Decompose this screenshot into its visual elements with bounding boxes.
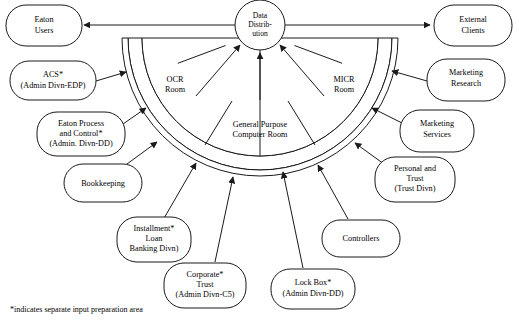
node-controllers[interactable]: Controllers: [322, 220, 400, 257]
footnote: *indicates separate input preparation ar…: [10, 305, 143, 314]
personal-trust-line-2: (Trust Divn): [395, 184, 436, 193]
installment-loan-line-1: Loan: [146, 234, 163, 243]
personal-trust-line-0: Personal and: [394, 164, 436, 173]
node-external-clients[interactable]: External Clients: [434, 5, 512, 46]
installment-loan-line-0: Installment*: [134, 224, 175, 233]
controllers-line-0: Controllers: [343, 234, 380, 243]
label-ocr-room: OCR Room: [165, 75, 186, 94]
external-clients-line-0: External: [459, 15, 487, 24]
flow-lock-box-to-band: [283, 172, 303, 268]
corporate-trust-line-1: Trust: [197, 280, 215, 289]
node-acs[interactable]: ACS* (Admin Divn-EDP): [10, 61, 96, 100]
eaton-users-line-0: Eaton: [34, 15, 53, 24]
acs-line-1: (Admin Divn-EDP): [21, 81, 86, 90]
label-general-purpose-computer-room: General Purpose Computer Room: [233, 120, 288, 139]
gpcr-line-1: Computer Room: [233, 130, 288, 139]
lock-box-line-1: (Admin Divn-DD): [282, 289, 343, 298]
label-micr-room: MICR Room: [334, 75, 355, 94]
hub-line-0: Data: [253, 11, 268, 20]
corporate-trust-line-2: (Admin Divn-C5): [176, 290, 235, 299]
lock-box-line-0: Lock Box*: [295, 278, 332, 287]
node-eaton-users[interactable]: Eaton Users: [6, 5, 82, 46]
hub-line-2: ution: [252, 29, 268, 38]
flow-corporate-trust-to-band: [215, 177, 233, 262]
hub-line-1: Distrib-: [248, 20, 272, 29]
installment-loan-line-2: Banking Divn): [130, 244, 179, 253]
gpcr-line-0: General Purpose: [233, 120, 288, 129]
node-lock-box[interactable]: Lock Box* (Admin Divn-DD): [271, 269, 355, 309]
acs-line-0: ACS*: [43, 70, 63, 79]
node-personal-and-trust[interactable]: Personal and Trust (Trust Divn): [375, 157, 455, 202]
corporate-trust-line-0: Corporate*: [187, 270, 224, 279]
eaton-process-line-2: (Admin. Divn-DD): [49, 139, 112, 148]
marketing-services-line-0: Marketing: [420, 119, 454, 128]
flow-controllers-to-band: [318, 165, 348, 219]
marketing-research-line-0: Marketing: [449, 68, 483, 77]
diagram-canvas: Eaton Users External Clients ACS* (Admin…: [0, 0, 519, 321]
bookkeeping-line-0: Bookkeeping: [81, 179, 125, 188]
micr-room-line-0: MICR: [334, 75, 355, 84]
personal-trust-line-1: Trust: [407, 174, 425, 183]
node-bookkeeping[interactable]: Bookkeeping: [64, 164, 142, 202]
node-installment-loan[interactable]: Installment* Loan Banking Divn): [117, 217, 191, 262]
eaton-users-line-1: Users: [35, 26, 54, 35]
marketing-services-line-1: Services: [423, 130, 451, 139]
marketing-research-line-1: Research: [451, 79, 481, 88]
eaton-process-line-1: and Control*: [60, 129, 103, 138]
micr-room-line-1: Room: [334, 85, 355, 94]
node-corporate-trust[interactable]: Corporate* Trust (Admin Divn-C5): [164, 263, 246, 308]
node-marketing-services[interactable]: Marketing Services: [400, 110, 474, 152]
node-marketing-research[interactable]: Marketing Research: [427, 59, 505, 101]
node-eaton-process-and-control[interactable]: Eaton Process and Control* (Admin. Divn-…: [37, 112, 125, 156]
ocr-room-line-1: Room: [165, 85, 186, 94]
external-clients-line-1: Clients: [461, 26, 484, 35]
ocr-room-line-0: OCR: [167, 75, 184, 84]
eaton-process-line-0: Eaton Process: [58, 119, 104, 128]
flow-installment-loan-to-band: [163, 163, 196, 220]
